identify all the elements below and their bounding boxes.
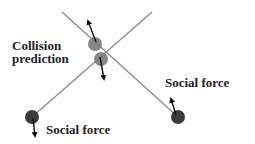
collision-diagram [0,0,255,144]
agent-right [171,110,185,124]
trajectory-line-1 [62,12,178,117]
collision-prediction-label: Collision prediction [12,39,69,65]
agent-left [25,110,39,124]
social-force-label-left: Social force [46,123,110,136]
social-force-label-right: Social force [165,76,229,89]
collision-label-line2: prediction [12,52,69,65]
